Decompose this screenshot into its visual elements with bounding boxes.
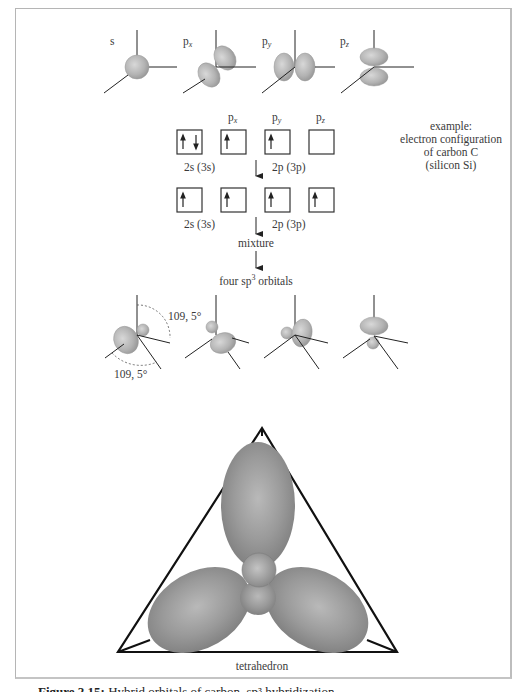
excited-state-electrons	[181, 193, 317, 207]
tetrahedron-label: tetrahedron	[236, 660, 289, 672]
label-pz: pz	[340, 35, 350, 49]
sp3-orbital-4	[343, 295, 408, 369]
diagram-canvas: s px py pz px py pz	[0, 0, 523, 692]
label-py: py	[262, 35, 272, 49]
svg-text:of carbon C: of carbon C	[424, 146, 479, 158]
orbital-px	[183, 30, 256, 93]
svg-text:(silicon Si): (silicon Si)	[426, 159, 477, 172]
example-note: example: electron configuration of carbo…	[400, 120, 502, 172]
figure-caption: Figure 2.15: Hybrid orbitals of carbon, …	[38, 684, 334, 692]
s-orbital-sphere	[125, 55, 149, 79]
header-py: py	[272, 111, 282, 125]
sp3-tetrahedral-lobes	[132, 442, 383, 670]
angle-arc-bottom	[112, 353, 157, 365]
orbital-py	[262, 30, 335, 93]
sp3-orbital-1	[105, 295, 170, 369]
excited-label-p: 2p (3p)	[272, 218, 306, 231]
label-s: s	[110, 35, 115, 47]
orbital-pz	[341, 30, 414, 93]
sp3-result-label: four sp3 orbitals	[219, 273, 293, 288]
angle-label-top: 109, 5°	[168, 310, 202, 323]
sp3-orbital-3	[264, 295, 328, 369]
ground-label-p: 2p (3p)	[272, 161, 306, 174]
excited-label-s: 2s (3s)	[184, 218, 215, 231]
orbital-s	[104, 30, 177, 93]
svg-text:electron configuration: electron configuration	[400, 133, 502, 146]
svg-text:example:: example:	[430, 120, 472, 133]
sp3-orbital-2	[185, 295, 249, 369]
hybrid-orbitals-figure: s px py pz px py pz	[0, 0, 523, 692]
angle-label-bottom: 109, 5°	[114, 368, 148, 381]
ground-state-electrons	[181, 135, 273, 149]
ground-label-s: 2s (3s)	[184, 161, 215, 174]
nucleus-sphere	[242, 553, 276, 587]
mixture-label: mixture	[238, 237, 274, 249]
ground-state-boxes	[177, 130, 334, 154]
excited-state-boxes	[177, 188, 334, 212]
label-px: px	[183, 35, 193, 49]
lobe-top	[221, 442, 295, 568]
header-px: px	[228, 111, 238, 125]
header-pz: pz	[316, 111, 326, 125]
